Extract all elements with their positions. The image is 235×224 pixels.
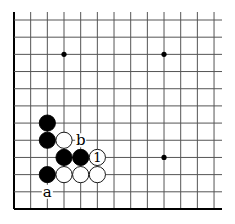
move-number-label: 1 xyxy=(93,150,101,165)
black-stone xyxy=(39,115,55,131)
star-point-icon xyxy=(161,52,166,57)
black-stone xyxy=(56,149,72,165)
point-label-b: b xyxy=(76,131,86,149)
black-stone xyxy=(73,149,89,165)
point-label-a: a xyxy=(43,183,52,201)
white-stone xyxy=(56,167,72,183)
white-stone xyxy=(56,132,72,148)
black-stone xyxy=(39,132,55,148)
star-point-icon xyxy=(61,52,66,57)
go-board-diagram: 1 ba xyxy=(0,0,235,224)
white-stone xyxy=(89,167,105,183)
black-stone xyxy=(39,167,55,183)
star-point-icon xyxy=(161,155,166,160)
stones: 1 xyxy=(39,115,105,183)
white-stone xyxy=(73,167,89,183)
